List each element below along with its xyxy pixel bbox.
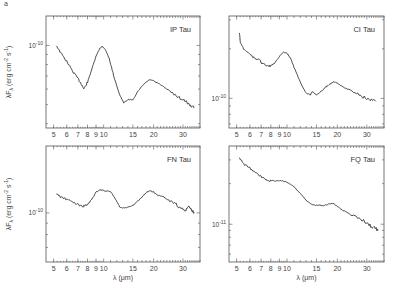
x-tick-label: 5 <box>52 265 56 272</box>
x-axis-label: λ (μm) <box>113 274 133 282</box>
x-tick-label: 8 <box>269 131 273 138</box>
y-axis-label: λFλ (erg cm-2 s-1) <box>3 46 14 99</box>
panel-title: FN Tau <box>167 155 191 164</box>
x-tick-label: 9 <box>94 265 98 272</box>
panel-fn-tau: 567891015203010-10FN TauλFλ (erg cm-2 s-… <box>3 146 200 282</box>
x-tick-label: 8 <box>86 265 90 272</box>
spectrum-line <box>240 158 379 231</box>
x-tick-label: 20 <box>333 265 341 272</box>
x-tick-label: 6 <box>248 131 252 138</box>
x-tick-label: 7 <box>259 131 263 138</box>
x-tick-label: 10 <box>100 265 108 272</box>
x-tick-label: 5 <box>235 265 239 272</box>
x-tick-label: 6 <box>65 265 69 272</box>
x-tick-label: 7 <box>76 131 80 138</box>
x-tick-label: 10 <box>100 131 108 138</box>
figure-canvas: 567891015203010-10IP TauλFλ (erg cm-2 s-… <box>0 0 400 296</box>
panel-fq-tau: 567891015203010-11FQ Tauλ (μm) <box>212 146 384 282</box>
y-axis-label: λFλ (erg cm-2 s-1) <box>3 178 14 231</box>
panel-ci-tau: 567891015203010-10CI Tau <box>212 16 384 138</box>
x-tick-label: 9 <box>94 131 98 138</box>
y-tick-label: 10-10 <box>29 40 44 49</box>
x-tick-label: 9 <box>277 131 281 138</box>
spectrum-line <box>56 190 194 214</box>
x-tick-label: 8 <box>269 265 273 272</box>
panel-title: FQ Tau <box>351 155 375 164</box>
x-tick-label: 20 <box>150 131 158 138</box>
panel-title: IP Tau <box>170 25 191 34</box>
x-tick-label: 6 <box>248 265 252 272</box>
y-tick-label: 10-10 <box>212 93 227 102</box>
x-tick-label: 5 <box>235 131 239 138</box>
spectrum-line <box>240 33 376 101</box>
panel-title: CI Tau <box>353 25 375 34</box>
x-tick-label: 30 <box>179 131 187 138</box>
x-tick-label: 15 <box>313 265 321 272</box>
x-tick-label: 5 <box>52 131 56 138</box>
x-tick-label: 30 <box>179 265 187 272</box>
y-tick-label: 10-10 <box>29 207 44 216</box>
x-tick-label: 20 <box>333 131 341 138</box>
corner-mark: a <box>4 0 8 7</box>
x-tick-label: 30 <box>363 265 371 272</box>
x-tick-label: 15 <box>313 131 321 138</box>
x-tick-label: 6 <box>65 131 69 138</box>
x-tick-label: 7 <box>76 265 80 272</box>
x-tick-label: 10 <box>283 265 291 272</box>
y-tick-label: 10-11 <box>212 219 226 228</box>
x-tick-label: 30 <box>363 131 371 138</box>
x-tick-label: 15 <box>129 265 137 272</box>
x-tick-label: 20 <box>150 265 158 272</box>
spectrum-line <box>56 46 194 108</box>
x-tick-label: 9 <box>277 265 281 272</box>
x-tick-label: 10 <box>283 131 291 138</box>
x-tick-label: 8 <box>86 131 90 138</box>
x-axis-label: λ (μm) <box>297 274 317 282</box>
x-tick-label: 7 <box>259 265 263 272</box>
x-tick-label: 15 <box>129 131 137 138</box>
panel-ip-tau: 567891015203010-10IP TauλFλ (erg cm-2 s-… <box>3 16 200 138</box>
